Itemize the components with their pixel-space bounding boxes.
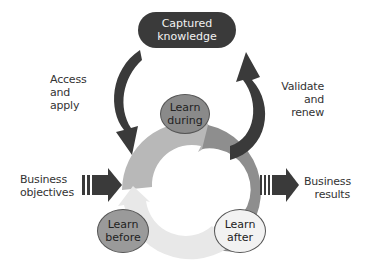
learn-after-line1: Learn (225, 218, 256, 231)
captured-knowledge-line2: knowledge (138, 30, 236, 43)
access-apply-label: Access and apply (50, 73, 86, 112)
validate-renew-line1: Validate (280, 80, 324, 93)
business-objectives-label: Business objectives (20, 173, 74, 199)
learn-after-node: Learn after (214, 209, 266, 253)
access-apply-line3: apply (50, 99, 86, 112)
learn-during-line1: Learn (170, 101, 201, 114)
validate-renew-label: Validate and renew (280, 80, 324, 119)
learn-before-node: Learn before (97, 209, 149, 253)
business-objectives-line2: objectives (20, 186, 74, 199)
business-results-label: Business results (304, 175, 350, 201)
business-results-line2: results (304, 188, 350, 201)
output-arrow (260, 168, 299, 202)
captured-knowledge-box: Captured knowledge (138, 12, 236, 48)
learn-after-line2: after (227, 231, 253, 244)
access-apply-line1: Access (50, 73, 86, 86)
business-results-line1: Business (304, 175, 350, 188)
business-objectives-line1: Business (20, 173, 74, 186)
learn-before-line2: before (105, 231, 140, 244)
access-apply-line2: and (50, 86, 86, 99)
learn-before-line1: Learn (108, 218, 139, 231)
validate-renew-line2: and (280, 93, 324, 106)
validate-renew-line3: renew (280, 106, 324, 119)
captured-knowledge-line1: Captured (138, 17, 236, 30)
input-arrow (82, 168, 122, 202)
learn-during-node: Learn during (160, 94, 210, 134)
access-apply-arrow (114, 50, 142, 155)
learn-during-line2: during (167, 114, 203, 127)
